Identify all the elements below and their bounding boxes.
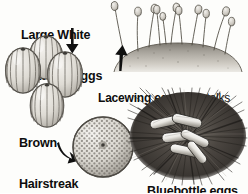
bluebottle-eggs-label: Bluebottle eggs	[134, 171, 238, 193]
bluebottle-label-text: Bluebottle eggs	[147, 184, 238, 194]
insect-eggs-figure: Large White Butterfly eggs	[0, 0, 248, 193]
bluebottle-eggs-illustration	[128, 88, 248, 180]
